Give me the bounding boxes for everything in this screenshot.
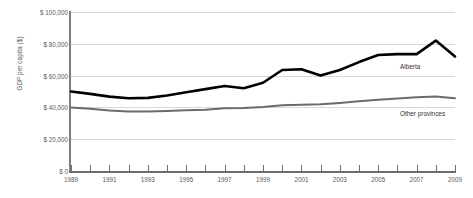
x-tick-mark xyxy=(301,165,302,172)
x-tick-mark xyxy=(109,165,110,172)
x-tick-label: 1993 xyxy=(141,176,155,183)
x-tick-label: 1991 xyxy=(102,176,116,183)
x-tick-mark xyxy=(397,165,398,172)
x-tick-mark xyxy=(436,165,437,172)
x-tick-mark xyxy=(321,165,322,172)
line-alberta xyxy=(71,41,455,99)
x-tick-mark xyxy=(455,165,456,172)
x-tick-mark xyxy=(378,165,379,172)
x-tick-mark xyxy=(282,165,283,172)
x-tick-mark xyxy=(417,165,418,172)
x-tick-mark xyxy=(359,165,360,172)
gdp-per-capita-line-chart: GDP per capita ($) $ 100,000$ 80,000$ 60… xyxy=(0,0,473,198)
x-tick-mark xyxy=(71,165,72,172)
x-tick-label: 1995 xyxy=(179,176,193,183)
x-tick-label: 2007 xyxy=(410,176,424,183)
x-tick-label: 1999 xyxy=(256,176,270,183)
x-tick-label: 2003 xyxy=(333,176,347,183)
x-tick-mark xyxy=(148,165,149,172)
series-label-other-provinces: Other provinces xyxy=(400,110,445,117)
x-tick-label: 1997 xyxy=(218,176,232,183)
x-tick-label: 2001 xyxy=(294,176,308,183)
x-tick-mark xyxy=(340,165,341,172)
series-label-alberta: Alberta xyxy=(400,63,420,70)
x-tick-mark xyxy=(90,165,91,172)
x-tick-mark xyxy=(129,165,130,172)
x-tick-mark xyxy=(167,165,168,172)
x-tick-label: 1989 xyxy=(64,176,78,183)
x-tick-mark xyxy=(205,165,206,172)
x-tick-mark xyxy=(186,165,187,172)
x-tick-mark xyxy=(244,165,245,172)
x-tick-mark xyxy=(225,165,226,172)
x-tick-label: 2005 xyxy=(371,176,385,183)
x-tick-label: 2009 xyxy=(448,176,462,183)
x-tick-mark xyxy=(263,165,264,172)
